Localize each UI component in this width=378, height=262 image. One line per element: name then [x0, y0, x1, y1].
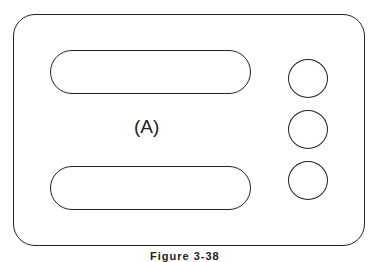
hole-2: [288, 110, 328, 149]
hole-3: [288, 161, 328, 200]
top-slot: [50, 50, 251, 94]
bottom-slot: [50, 166, 251, 210]
figure-caption: Figure 3-38: [150, 250, 220, 262]
diagram-label: (A): [134, 116, 159, 138]
hole-1: [288, 59, 328, 98]
